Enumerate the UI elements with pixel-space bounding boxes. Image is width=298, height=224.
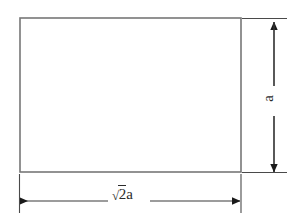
rectangle-shape: [20, 18, 241, 172]
radicand-value: 2: [118, 185, 126, 202]
width-dimension-label: √2a: [112, 187, 133, 202]
height-dimension-label: a: [261, 95, 276, 102]
width-variable: a: [126, 186, 133, 202]
radical-sign-icon: √: [112, 188, 119, 203]
diagram-canvas: √2a a: [0, 0, 298, 224]
radical-group: √2: [112, 187, 126, 202]
dimension-drawing-svg: [0, 0, 298, 224]
